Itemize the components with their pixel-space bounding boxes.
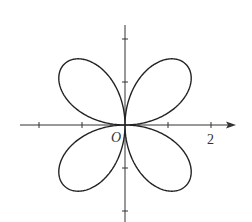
polar-plot: O 2 — [0, 0, 252, 222]
axes — [20, 25, 236, 222]
x-tick-label: 2 — [207, 132, 214, 147]
tick-labels: 2 — [207, 132, 214, 147]
origin-label: O — [111, 130, 121, 145]
